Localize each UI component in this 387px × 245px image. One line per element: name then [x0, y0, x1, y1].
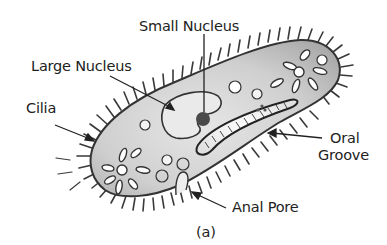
label-small-nucleus: Small Nucleus [139, 19, 239, 35]
figure-caption: (a) [196, 225, 216, 241]
label-cilia: Cilia [26, 101, 56, 117]
paramecium-diagram [0, 0, 387, 245]
label-oral-groove-line2: Groove [318, 148, 369, 164]
label-oral-groove-line1: Oral [330, 131, 360, 147]
label-anal-pore: Anal Pore [232, 200, 299, 216]
label-large-nucleus: Large Nucleus [31, 59, 132, 75]
small-nucleus [196, 112, 210, 126]
